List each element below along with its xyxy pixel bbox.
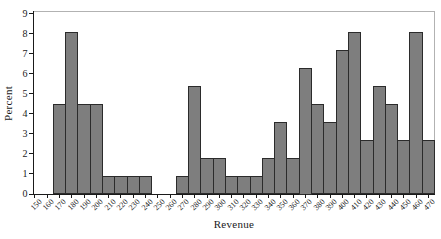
histogram-bar (323, 122, 336, 195)
y-tick-label: 3 (6, 127, 28, 140)
x-tick (145, 194, 146, 198)
histogram-bar (114, 176, 127, 195)
y-tick (29, 113, 33, 114)
y-tick (29, 173, 33, 174)
x-tick (354, 194, 355, 198)
histogram-bar (237, 176, 250, 195)
histogram-bar (360, 140, 373, 195)
y-tick-label: 6 (6, 67, 28, 80)
y-tick (29, 153, 33, 154)
histogram-bar (139, 176, 152, 195)
y-tick-label: 0 (6, 187, 28, 200)
x-tick (71, 194, 72, 198)
y-tick (29, 194, 33, 195)
histogram-bar (385, 104, 398, 194)
histogram-bar (373, 86, 386, 194)
y-tick (29, 13, 33, 14)
histogram-bar (188, 86, 201, 194)
y-tick-label: 4 (6, 107, 28, 120)
x-tick (317, 194, 318, 198)
y-axis-line (33, 11, 34, 195)
histogram-bar (77, 104, 90, 194)
histogram-bar (262, 158, 275, 195)
y-tick-label: 9 (6, 7, 28, 20)
histogram-bar (250, 176, 263, 195)
y-tick-label: 8 (6, 27, 28, 40)
histogram-bar (422, 140, 435, 195)
x-axis-title: Revenue (34, 218, 435, 231)
x-tick (403, 194, 404, 198)
y-tick-label: 7 (6, 47, 28, 60)
histogram-bar (299, 68, 312, 194)
x-tick (34, 194, 35, 198)
histogram-bar (409, 32, 422, 194)
x-tick (280, 194, 281, 198)
x-tick (194, 194, 195, 198)
x-tick (157, 194, 158, 198)
histogram-bar (176, 176, 189, 195)
y-tick (29, 133, 33, 134)
histogram-bar (53, 104, 66, 194)
histogram-bar (336, 50, 349, 194)
y-tick (29, 33, 33, 34)
histogram-bar (65, 32, 78, 194)
y-tick-label: 1 (6, 167, 28, 180)
x-tick-label: 470 (423, 198, 437, 212)
plot-border-top (34, 11, 435, 12)
histogram-bar (348, 32, 361, 194)
y-tick-label: 2 (6, 147, 28, 160)
x-tick (231, 194, 232, 198)
y-tick (29, 53, 33, 54)
y-tick (29, 93, 33, 94)
histogram-bar (90, 104, 103, 194)
y-tick (29, 73, 33, 74)
x-tick (108, 194, 109, 198)
histogram-bar (397, 140, 410, 195)
histogram-bar (200, 158, 213, 195)
histogram-bar (311, 104, 324, 194)
histogram-bar (225, 176, 238, 195)
x-tick (268, 194, 269, 198)
histogram-bar (274, 122, 287, 195)
histogram-bar (286, 158, 299, 195)
histogram-bar (102, 176, 115, 195)
histogram-figure: Percent 0123456789 150160170180190200210… (0, 0, 441, 239)
histogram-bar (127, 176, 140, 195)
y-tick-label: 5 (6, 87, 28, 100)
x-tick (391, 194, 392, 198)
histogram-bar (213, 158, 226, 195)
